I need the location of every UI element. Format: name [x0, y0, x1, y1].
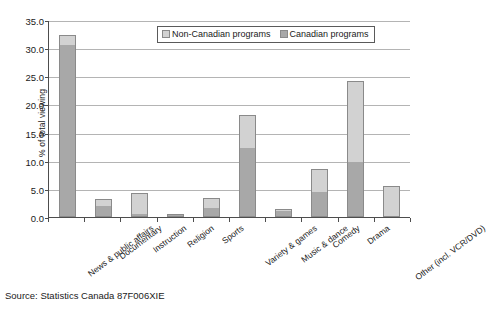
bar-slot [229, 21, 265, 217]
plot-area [48, 21, 410, 218]
bar-stack[interactable] [167, 214, 184, 217]
bar-segment-canadian [347, 162, 364, 217]
x-axis-tick-mark [410, 218, 411, 222]
y-axis-tick-label: 25.0 [0, 72, 44, 83]
y-axis-tick-label: 0.0 [0, 213, 44, 224]
x-axis-tick-mark [301, 218, 302, 222]
bar-segment-noncanadian [59, 35, 76, 45]
bar-slot [302, 21, 338, 217]
bar-segment-noncanadian [311, 169, 328, 192]
bar-segment-noncanadian [383, 186, 400, 217]
bar-segment-canadian [203, 208, 220, 217]
legend-swatch-noncanadian-icon [162, 30, 170, 38]
source-caption: Source: Statistics Canada 87F006XIE [5, 290, 164, 301]
bar-series-group [49, 21, 410, 217]
bar-segment-noncanadian [239, 115, 256, 148]
bar-slot [266, 21, 302, 217]
x-axis-tick-mark [374, 218, 375, 222]
bar-stack[interactable] [203, 198, 220, 217]
chart-legend: Non-Canadian programs Canadian programs [157, 26, 375, 43]
y-axis-title: % of total viewing [37, 43, 47, 203]
x-axis-category-label: Drama [365, 223, 391, 246]
x-axis-tick-mark [229, 218, 230, 222]
bar-segment-noncanadian [95, 199, 112, 206]
bar-segment-canadian [275, 211, 292, 217]
x-axis-tick-marks [48, 218, 410, 222]
bar-slot [121, 21, 157, 217]
x-axis-category-label: Other (incl. VCR/DVD) [413, 223, 487, 282]
legend-label-noncanadian: Non-Canadian programs [172, 29, 271, 39]
bar-slot [338, 21, 374, 217]
bar-slot [85, 21, 121, 217]
y-axis-tick-label: 5.0 [0, 184, 44, 195]
x-axis-category-label: Religion [185, 223, 216, 249]
bar-segment-canadian [59, 45, 76, 217]
x-axis-tick-mark [84, 218, 85, 222]
bar-stack[interactable] [311, 169, 328, 217]
x-axis-tick-mark [265, 218, 266, 222]
bar-stack[interactable] [347, 81, 364, 217]
legend-label-canadian: Canadian programs [290, 29, 369, 39]
y-axis-tick-label: 35.0 [0, 16, 44, 27]
x-axis-category-label: Variety & games [264, 223, 319, 268]
bar-stack[interactable] [95, 199, 112, 217]
y-axis-tick-label: 30.0 [0, 44, 44, 55]
x-axis-tick-mark [120, 218, 121, 222]
bar-stack[interactable] [275, 209, 292, 217]
bar-slot [49, 21, 85, 217]
bar-segment-noncanadian [203, 198, 220, 208]
y-axis-tick-label: 15.0 [0, 128, 44, 139]
bar-segment-noncanadian [347, 81, 364, 161]
bar-segment-canadian [95, 206, 112, 217]
bar-stack[interactable] [131, 193, 148, 217]
y-axis-tick-label: 10.0 [0, 156, 44, 167]
bar-slot [157, 21, 193, 217]
legend-entry-noncanadian: Non-Canadian programs [162, 29, 271, 39]
bar-stack[interactable] [239, 115, 256, 217]
x-axis-tick-mark [193, 218, 194, 222]
legend-swatch-canadian-icon [280, 30, 288, 38]
x-axis-category-label: Sports [220, 223, 246, 246]
bar-segment-canadian [131, 214, 148, 217]
bar-segment-canadian [239, 148, 256, 217]
bar-segment-canadian [167, 215, 184, 217]
bar-stack[interactable] [59, 35, 76, 217]
x-axis-category-labels: News & public affairsDocumentaryInstruct… [48, 223, 410, 285]
y-axis-tick-label: 20.0 [0, 100, 44, 111]
x-axis-tick-mark [48, 218, 49, 222]
bar-segment-canadian [311, 192, 328, 217]
x-axis-tick-mark [338, 218, 339, 222]
bar-stack[interactable] [383, 186, 400, 217]
bar-slot [193, 21, 229, 217]
bar-segment-noncanadian [131, 193, 148, 213]
legend-entry-canadian: Canadian programs [280, 29, 369, 39]
bar-slot [374, 21, 410, 217]
